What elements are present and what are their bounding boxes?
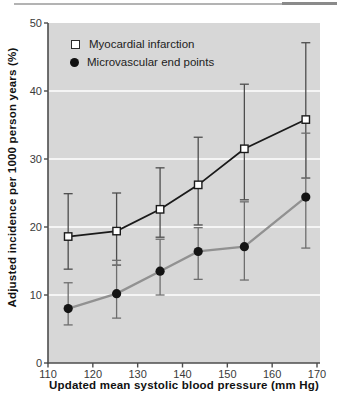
- y-tick-label: 30: [30, 153, 42, 165]
- y-tick-label: 20: [30, 221, 42, 233]
- legend-label: Myocardial infarction: [89, 38, 194, 50]
- data-point-circle: [240, 242, 249, 251]
- y-tick-label: 40: [30, 85, 42, 97]
- legend-label: Microvascular end points: [87, 56, 214, 68]
- y-tick-label: 10: [30, 289, 42, 301]
- y-tick-label: 50: [30, 17, 42, 29]
- data-point-circle: [155, 267, 164, 276]
- x-axis-title: Updated mean systolic blood pressure (mm…: [48, 379, 320, 391]
- data-point-circle: [194, 247, 203, 256]
- y-axis-title: Adjusted incidence per 1000 person years…: [6, 8, 21, 348]
- data-point-square: [194, 181, 201, 188]
- legend-item-myocardial-infarction: Myocardial infarction: [68, 35, 214, 53]
- open-square-marker-icon: [71, 40, 80, 49]
- data-point-square: [241, 145, 248, 152]
- filled-circle-marker-icon: [70, 58, 79, 67]
- data-point-square: [113, 227, 120, 234]
- data-point-square: [302, 116, 309, 123]
- data-point-circle: [64, 304, 73, 313]
- data-point-square: [156, 206, 163, 213]
- legend-item-microvascular-end-points: Microvascular end points: [68, 53, 214, 71]
- legend: Myocardial infarction Microvascular end …: [68, 35, 214, 71]
- figure: 01020304050110120130140150160170 Adjuste…: [0, 0, 338, 405]
- data-point-circle: [301, 192, 310, 201]
- data-point-square: [64, 233, 71, 240]
- data-point-circle: [112, 289, 121, 298]
